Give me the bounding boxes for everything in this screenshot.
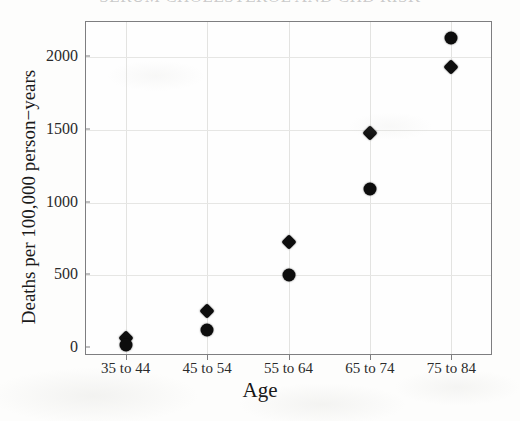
y-axis-tick-mark [85,274,90,275]
x-axis-tick-label: 35 to 44 [101,360,150,377]
y-axis-tick-mark [85,201,90,202]
gridline-vertical [126,22,127,354]
y-axis-tick-mark [85,128,90,129]
x-axis-tick-mark [207,355,208,360]
cropped-title-strip: SERUM CHOLESTEROL AND CHD RISK [0,0,520,9]
x-axis-tick-label: 65 to 74 [345,360,394,377]
gridline-horizontal [86,57,491,58]
y-axis-label: Deaths per 100,000 person−years [18,47,40,347]
x-axis-tick-mark [289,355,290,360]
data-point-circle [363,183,376,196]
data-point-circle [445,31,458,44]
gridline-vertical [289,22,290,354]
x-axis-tick-label: 75 to 84 [427,360,476,377]
y-axis-tick-mark [85,56,90,57]
x-axis-tick-mark [126,355,127,360]
x-axis-tick-mark [451,355,452,360]
y-axis-tick-label: 0 [70,338,78,356]
gridline-horizontal [86,203,491,204]
y-axis-tick-label: 1500 [46,120,78,138]
y-axis-tick-label: 1000 [46,193,78,211]
x-axis-tick-mark [370,355,371,360]
data-point-circle [282,268,295,281]
scatter-chart-figure: SERUM CHOLESTEROL AND CHD RISK Deaths pe… [0,0,520,421]
x-axis-label: Age [0,378,520,403]
x-axis-tick-label: 45 to 54 [183,360,232,377]
data-point-circle [201,324,214,337]
gridline-horizontal [86,130,491,131]
y-axis-tick-label: 500 [54,265,78,283]
x-axis-tick-label: 55 to 64 [264,360,313,377]
y-axis-tick-label: 2000 [46,47,78,65]
cropped-title-text: SERUM CHOLESTEROL AND CHD RISK [99,0,420,7]
data-point-circle [119,338,132,351]
y-axis-tick-mark [85,347,90,348]
plot-area [85,21,492,355]
